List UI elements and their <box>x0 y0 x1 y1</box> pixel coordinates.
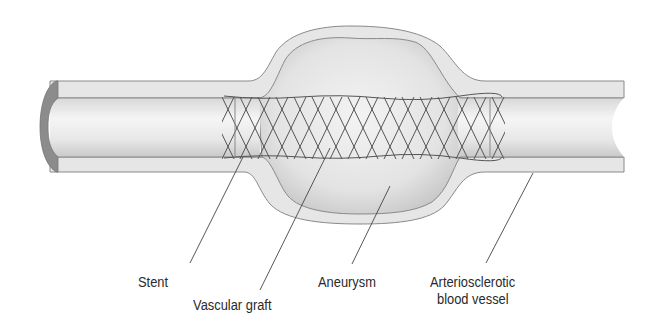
aneurysm-sac <box>258 38 460 214</box>
leader-vessel <box>486 173 533 263</box>
label-vessel-line2: blood vessel <box>437 291 509 308</box>
label-vascular-graft: Vascular graft <box>193 297 272 314</box>
label-stent: Stent <box>138 274 168 291</box>
label-vessel-line1: Arteriosclerotic <box>430 274 515 291</box>
leader-stent <box>190 157 243 263</box>
vessel-lumen-right <box>458 98 624 157</box>
label-aneurysm: Aneurysm <box>318 274 376 291</box>
